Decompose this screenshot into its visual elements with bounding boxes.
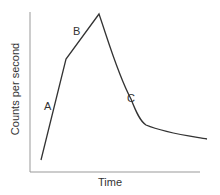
x-axis-label: Time bbox=[90, 176, 130, 188]
segment-label-c: C bbox=[127, 92, 135, 104]
y-axis-label: Counts per second bbox=[9, 39, 23, 139]
chart bbox=[0, 0, 220, 195]
segment-label-a: A bbox=[44, 100, 51, 112]
segment-label-b: B bbox=[73, 25, 80, 37]
count-rate-curve bbox=[41, 14, 207, 160]
